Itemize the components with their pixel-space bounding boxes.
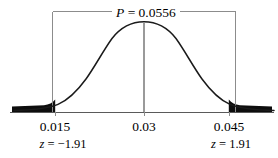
p-symbol: P [116,5,124,20]
p-value-label: P = 0.0556 [112,6,180,20]
x-tick-label-left: 0.015 [25,120,85,134]
normal-distribution-figure: P = 0.0556 0.015 0.03 0.045 z = −1.91 z … [0,0,278,158]
z-value-right: = 1.91 [216,137,251,151]
z-value-left: = −1.91 [44,137,86,151]
x-tick-label-right: 0.045 [199,120,259,134]
x-tick-label-center: 0.03 [116,120,172,134]
x-axis-ticks [55,112,229,116]
z-label-right: z = 1.91 [196,138,266,151]
distribution-plot [0,0,278,158]
z-label-left: z = −1.91 [25,138,101,151]
p-value-text: = 0.0556 [124,5,176,20]
